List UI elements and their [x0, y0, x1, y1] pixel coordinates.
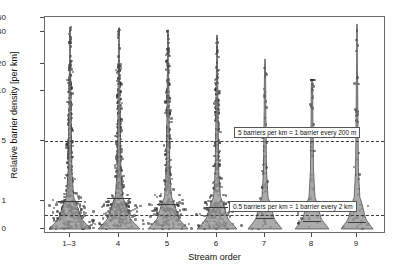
- median-line: [348, 222, 366, 223]
- x-tick-mark: [69, 233, 70, 237]
- x-tick-mark: [311, 233, 312, 237]
- x-tick-label: 9: [354, 239, 358, 248]
- annotation-0.5: 0.5 barriers per km = 1 barrier every 2 …: [229, 201, 357, 212]
- y-tick-label: 40: [0, 27, 6, 36]
- x-tick-label: 8: [309, 239, 313, 248]
- x-tick-mark: [216, 233, 217, 237]
- y-tick-label: 1: [2, 196, 6, 205]
- x-tick-label: 1–3: [62, 239, 75, 248]
- figure-barrier-density: Relative barrier density [per km] 015102…: [0, 0, 402, 277]
- y-tick-label: 60: [0, 13, 6, 22]
- y-tick-label: 5: [2, 136, 6, 145]
- reference-line-5: [45, 141, 384, 142]
- y-axis-label: Relative barrier density [per km]: [9, 5, 19, 225]
- annotation-5: 5 barriers per km = 1 barrier every 200 …: [234, 127, 360, 138]
- y-tick-label: 10: [0, 86, 6, 95]
- x-tick-label: 6: [214, 239, 218, 248]
- y-tick-label: 20: [0, 59, 6, 68]
- x-tick-label: 4: [116, 239, 120, 248]
- x-axis-label: Stream order: [44, 252, 385, 262]
- x-tick-mark: [264, 233, 265, 237]
- x-tick-mark: [167, 233, 168, 237]
- x-tick-mark: [356, 233, 357, 237]
- x-tick-label: 7: [262, 239, 266, 248]
- reference-line-0.5: [45, 215, 384, 216]
- x-tick-label: 5: [165, 239, 169, 248]
- y-tick-label: 0: [2, 224, 6, 233]
- x-tick-mark: [118, 233, 119, 237]
